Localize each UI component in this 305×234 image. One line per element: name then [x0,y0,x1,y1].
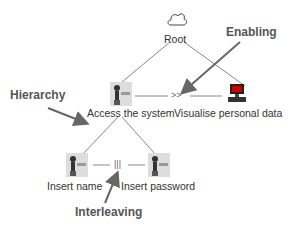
access-label: Access the system [87,107,175,119]
user-task-icon [66,153,88,177]
hierarchy-arrow [48,108,86,123]
insert-name-label: Insert name [47,180,102,192]
root-label: Root [164,33,186,45]
hierarchy-annotation: Hierarchy [10,88,65,102]
computer-icon [226,84,248,104]
interleaving-arrow [105,174,117,203]
interleaving-operator: ||| [114,159,121,169]
cloud-icon [166,10,188,30]
user-task-icon [148,153,170,177]
insert-password-label: Insert password [121,180,195,192]
enabling-operator: >> [171,90,182,100]
visualise-label: Visualise personal data [174,107,282,119]
interleaving-annotation: Interleaving [75,205,142,219]
access-to-password-line [122,117,156,155]
enabling-annotation: Enabling [226,25,277,39]
access-to-name-line [82,117,118,155]
user-task-icon [110,82,132,106]
root-to-access-line [122,42,170,82]
